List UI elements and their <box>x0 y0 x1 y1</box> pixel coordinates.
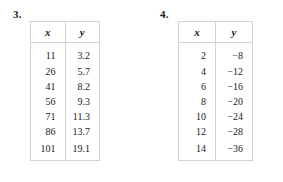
cell-y: 11.3 <box>65 109 100 124</box>
table-row: 12 −28 <box>179 124 253 139</box>
cell-y: −36 <box>216 139 253 161</box>
cell-x: 2 <box>179 43 216 65</box>
table-row: 10 −24 <box>179 109 253 124</box>
table-row: 71 11.3 <box>31 109 100 124</box>
cell-y: 13.7 <box>65 124 100 139</box>
table-row: 26 5.7 <box>31 64 100 79</box>
cell-x: 12 <box>179 124 216 139</box>
column-header-y: y <box>65 22 100 43</box>
cell-y: −24 <box>216 109 253 124</box>
cell-y: −8 <box>216 43 253 65</box>
table-row: 86 13.7 <box>31 124 100 139</box>
table-row: 6 −16 <box>179 79 253 94</box>
problem-3: 3. x y 11 3.2 26 5.7 41 8.2 56 9.3 <box>0 0 142 182</box>
cell-x: 11 <box>31 43 66 65</box>
cell-y: 9.3 <box>65 94 100 109</box>
problem-4-number: 4. <box>160 8 169 20</box>
problem-3-number: 3. <box>13 8 22 20</box>
cell-y: 8.2 <box>65 79 100 94</box>
table-row: 101 19.1 <box>31 139 100 161</box>
cell-x: 14 <box>179 139 216 161</box>
column-header-y: y <box>216 22 253 43</box>
cell-x: 56 <box>31 94 66 109</box>
problem-3-table: x y 11 3.2 26 5.7 41 8.2 56 9.3 71 <box>30 21 100 161</box>
cell-y: −12 <box>216 64 253 79</box>
problem-4: 4. x y 2 −8 4 −12 6 −16 8 −20 <box>142 0 283 182</box>
cell-x: 101 <box>31 139 66 161</box>
cell-x: 6 <box>179 79 216 94</box>
table-row: 11 3.2 <box>31 43 100 65</box>
cell-x: 71 <box>31 109 66 124</box>
table-row: 41 8.2 <box>31 79 100 94</box>
cell-x: 4 <box>179 64 216 79</box>
cell-x: 86 <box>31 124 66 139</box>
column-header-x: x <box>179 22 216 43</box>
table-row: 14 −36 <box>179 139 253 161</box>
cell-y: −28 <box>216 124 253 139</box>
cell-y: 19.1 <box>65 139 100 161</box>
problem-4-table: x y 2 −8 4 −12 6 −16 8 −20 10 −2 <box>178 21 253 161</box>
cell-y: −20 <box>216 94 253 109</box>
column-header-x: x <box>31 22 66 43</box>
cell-x: 10 <box>179 109 216 124</box>
cell-y: −16 <box>216 79 253 94</box>
table-row: 8 −20 <box>179 94 253 109</box>
cell-y: 5.7 <box>65 64 100 79</box>
cell-x: 8 <box>179 94 216 109</box>
table-row: 56 9.3 <box>31 94 100 109</box>
table-header-row: x y <box>179 22 253 43</box>
table-row: 2 −8 <box>179 43 253 65</box>
cell-x: 26 <box>31 64 66 79</box>
cell-x: 41 <box>31 79 66 94</box>
table-header-row: x y <box>31 22 100 43</box>
table-row: 4 −12 <box>179 64 253 79</box>
cell-y: 3.2 <box>65 43 100 65</box>
